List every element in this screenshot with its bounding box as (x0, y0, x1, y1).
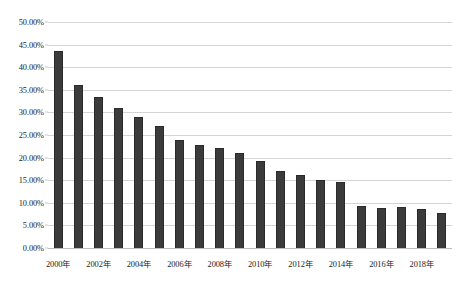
y-tick-label: 30.00% (19, 108, 44, 117)
x-tick-label: 2012年 (288, 257, 312, 269)
bar (175, 140, 184, 248)
bar (74, 85, 83, 248)
plot-area (48, 22, 452, 248)
y-tick-label: 25.00% (19, 131, 44, 140)
x-tick-label: 2000年 (46, 257, 70, 269)
x-tick-label: 2006年 (167, 257, 191, 269)
x-axis: 2000年2002年2004年2006年2008年2010年2012年2014年… (48, 249, 452, 286)
bar (397, 207, 406, 248)
bars-series (48, 22, 452, 248)
bar-chart: 50.00%45.00%40.00%35.00%30.00%25.00%20.0… (0, 0, 461, 286)
y-tick-label: 40.00% (19, 63, 44, 72)
bar (296, 175, 305, 248)
x-tick-label: 2004年 (127, 257, 151, 269)
x-tick-label: 2018年 (410, 257, 434, 269)
bar (114, 108, 123, 248)
bar (256, 161, 265, 248)
y-tick-label: 5.00% (23, 221, 44, 230)
y-tick-label: 20.00% (19, 153, 44, 162)
bar (417, 209, 426, 248)
y-tick-label: 35.00% (19, 85, 44, 94)
x-tick-label: 2010年 (248, 257, 272, 269)
x-tick-label: 2016年 (369, 257, 393, 269)
bar (195, 145, 204, 248)
bar (437, 213, 446, 248)
y-axis: 50.00%45.00%40.00%35.00%30.00%25.00%20.0… (0, 0, 48, 286)
bar (316, 180, 325, 248)
bar (155, 126, 164, 248)
bar (377, 208, 386, 248)
x-tick-label: 2002年 (86, 257, 110, 269)
x-tick-label: 2008年 (208, 257, 232, 269)
bar (134, 117, 143, 248)
y-tick-label: 45.00% (19, 40, 44, 49)
bar (54, 51, 63, 248)
y-tick-label: 15.00% (19, 176, 44, 185)
bar (357, 206, 366, 248)
bar (276, 171, 285, 248)
x-tick-label: 2014年 (329, 257, 353, 269)
bar (336, 182, 345, 248)
bar (94, 97, 103, 248)
bar (215, 148, 224, 248)
y-tick-label: 50.00% (19, 18, 44, 27)
y-tick-label: 10.00% (19, 198, 44, 207)
y-tick-label: 0.00% (23, 244, 44, 253)
bar (235, 153, 244, 248)
